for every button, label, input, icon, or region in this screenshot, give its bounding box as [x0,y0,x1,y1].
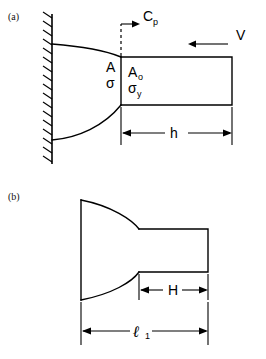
H-arrow-head-right-icon [199,287,208,294]
taper-lower-curve [52,105,121,140]
impact-velocity-indicator: V [188,27,246,48]
taper-area-symbol: A [106,59,116,75]
taper-stress-symbol: σ [106,75,115,91]
flare-lower-curve [81,272,139,300]
H-arrow-head-left-icon [140,287,149,294]
l1-arrow-head-left-icon [82,328,91,335]
remaining-uniform-bar [139,229,208,272]
rigid-wall [43,12,52,164]
h-arrow-head-left-icon [122,130,131,137]
H-dimension-label: H [168,282,178,298]
l1-dimension-label: ℓ [132,323,140,340]
wave-arrow-head-icon [132,21,140,28]
yield-stress-symbol: σ [128,80,137,96]
l1-dimension-subscript: 1 [145,331,150,341]
panel-a-label: (a) [8,11,19,23]
figure-container: (a) [0,0,266,359]
panel-b-label: (b) [8,191,20,203]
panel-b: (b) H [8,191,208,345]
uniform-area-subscript: o [138,72,143,82]
uniform-section-labels: A o σ y [128,64,143,99]
deformed-specimen-profile [81,200,139,300]
velocity-arrow-head-icon [188,41,196,48]
dimension-H: H [139,274,208,300]
taper-section-labels: A σ [106,59,116,91]
uniform-area-symbol: A [128,64,138,80]
plastic-wave-speed-symbol: C [143,8,153,24]
dimension-h: h [121,107,232,145]
l1-arrow-head-right-icon [199,328,208,335]
yield-stress-subscript: y [137,89,142,99]
h-dimension-label: h [170,125,178,141]
remaining-bar-rectangle [139,229,208,272]
impact-velocity-symbol: V [236,27,246,43]
flare-upper-curve [81,200,139,229]
taper-upper-curve [52,44,121,57]
panel-a: (a) [8,8,246,164]
wall-hatching [43,12,52,162]
dimension-l1: ℓ 1 [81,302,208,345]
plastic-wave-speed-subscript: p [153,17,158,27]
technical-figure: (a) [0,0,266,359]
plastic-wave-indicator: C p [121,8,158,56]
h-arrow-head-right-icon [223,130,232,137]
